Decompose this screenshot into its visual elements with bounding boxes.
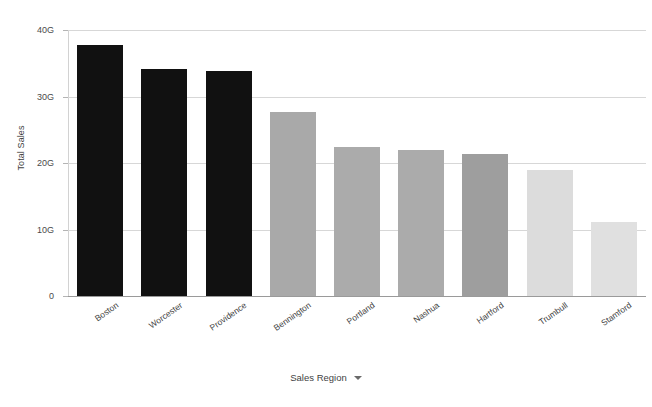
y-tick-label: 30G (14, 92, 54, 102)
x-tick-label: Nashua (411, 300, 441, 325)
x-tick-label: Bennington (272, 300, 313, 333)
plot-area: 010G20G30G40G (68, 30, 646, 296)
y-tick-label: 0 (14, 291, 54, 301)
x-tick-label: Providence (208, 300, 249, 333)
x-tick-label: Worcester (147, 300, 184, 330)
x-tick-label: Boston (92, 300, 119, 323)
y-tick-label: 40G (14, 25, 54, 35)
bar[interactable] (270, 112, 316, 296)
x-axis-title-label: Sales Region (290, 372, 347, 383)
bar-chart: Total Sales 010G20G30G40G BostonWorceste… (0, 0, 652, 407)
x-tick-label: Stamford (600, 300, 634, 328)
chevron-down-icon[interactable] (354, 376, 362, 380)
x-axis-title-dropdown[interactable]: Sales Region (0, 372, 652, 383)
x-tick-label: Trumbull (537, 300, 570, 327)
x-tick-label: Portland (345, 300, 377, 326)
bar[interactable] (77, 45, 123, 296)
y-tick-label: 10G (14, 225, 54, 235)
bar[interactable] (591, 222, 637, 296)
bar[interactable] (462, 154, 508, 296)
bar[interactable] (141, 69, 187, 296)
bar[interactable] (398, 150, 444, 296)
bars-layer (68, 30, 646, 296)
x-axis-tick-labels: BostonWorcesterProvidenceBenningtonPortl… (68, 296, 646, 356)
bar[interactable] (206, 71, 252, 296)
y-tick-label: 20G (14, 158, 54, 168)
y-axis-title: Total Sales (10, 0, 32, 296)
bar[interactable] (334, 147, 380, 296)
x-tick-label: Hartford (474, 300, 505, 326)
bar[interactable] (527, 170, 573, 296)
